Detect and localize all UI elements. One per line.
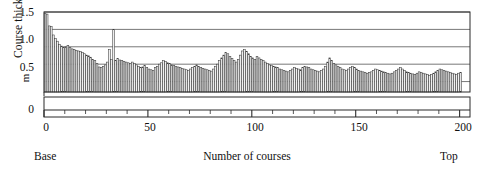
x-axis: [44, 97, 470, 117]
figure: Course thickness m 1.5 1.0 0.5 0 0 50 10…: [0, 0, 494, 174]
bars: [44, 13, 461, 92]
bar-chart-plot: [0, 0, 494, 174]
